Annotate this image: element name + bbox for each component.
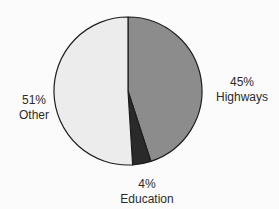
- pie-slices: [54, 17, 202, 165]
- label-other-name: Other: [19, 108, 49, 123]
- label-highways: 45% Highways: [216, 75, 268, 105]
- pie-slice-other: [54, 17, 133, 165]
- label-highways-name: Highways: [216, 90, 268, 105]
- label-education: 4% Education: [120, 177, 173, 207]
- label-education-name: Education: [120, 192, 173, 207]
- label-other: 51% Other: [19, 93, 49, 123]
- label-education-pct: 4%: [120, 177, 173, 192]
- label-highways-pct: 45%: [216, 75, 268, 90]
- label-other-pct: 51%: [19, 93, 49, 108]
